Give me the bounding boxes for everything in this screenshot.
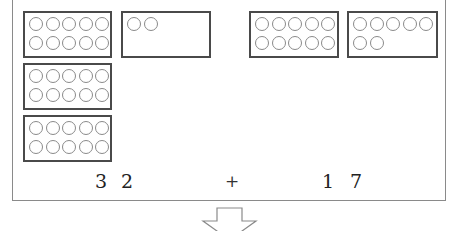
counter-dot (95, 17, 109, 31)
counter-dot (127, 17, 141, 31)
counter-dot (95, 121, 109, 135)
counter-dot (46, 140, 60, 154)
ones-box-right (347, 11, 438, 58)
counter-dot (62, 121, 76, 135)
counter-dot (29, 140, 43, 154)
counter-dot (62, 88, 76, 102)
counter-dot (79, 69, 93, 83)
counter-dot (272, 17, 286, 31)
ten-frame-box-left-2 (23, 63, 112, 110)
counter-dot (46, 17, 60, 31)
counter-dot (46, 69, 60, 83)
counter-dot (272, 36, 286, 50)
counter-dot (288, 17, 302, 31)
counter-dot (29, 17, 43, 31)
counter-dot (29, 88, 43, 102)
counter-dot (288, 36, 302, 50)
left-tens-digit: 3 (95, 170, 107, 192)
counter-dot (46, 121, 60, 135)
counter-dot (62, 140, 76, 154)
down-arrow-icon (200, 206, 260, 231)
counter-dot (370, 17, 384, 31)
counter-dot (79, 140, 93, 154)
left-ones-digit: 2 (121, 170, 133, 192)
counter-dot (255, 36, 269, 50)
counter-dot (79, 88, 93, 102)
right-tens-digit: 1 (322, 170, 334, 192)
counter-dot (386, 17, 400, 31)
counter-dot (62, 36, 76, 50)
plus-sign: + (225, 171, 239, 191)
counter-dot (79, 121, 93, 135)
ten-frame-box-right-1 (249, 11, 339, 58)
ten-frame-box-left-3 (23, 115, 112, 162)
counter-dot (95, 36, 109, 50)
ones-box-left (121, 11, 211, 58)
counter-dot (29, 69, 43, 83)
right-ones-digit: 7 (350, 170, 362, 192)
counter-dot (305, 17, 319, 31)
counter-dot (305, 36, 319, 50)
counter-dot (95, 69, 109, 83)
counter-dot (321, 36, 335, 50)
counter-dot (79, 17, 93, 31)
counter-dot (321, 17, 335, 31)
counter-dot (353, 17, 367, 31)
counter-dot (46, 36, 60, 50)
counter-dot (46, 88, 60, 102)
counter-dot (79, 36, 93, 50)
counter-dot (419, 17, 433, 31)
counter-dot (29, 121, 43, 135)
counter-dot (144, 17, 158, 31)
counter-dot (370, 36, 384, 50)
counter-dot (62, 69, 76, 83)
counter-dot (353, 36, 367, 50)
ten-frame-box-left-1 (23, 11, 112, 58)
counter-dot (403, 17, 417, 31)
counter-dot (255, 17, 269, 31)
counter-dot (62, 17, 76, 31)
counter-dot (95, 88, 109, 102)
counter-dot (95, 140, 109, 154)
counter-dot (29, 36, 43, 50)
